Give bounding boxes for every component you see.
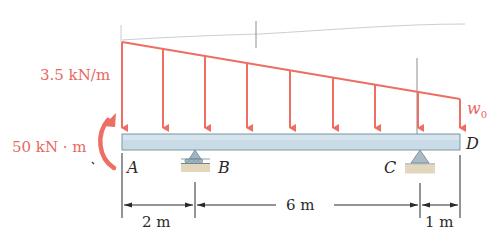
moment-label: 50 kN · m bbox=[12, 140, 87, 155]
diagram-canvas bbox=[0, 0, 503, 245]
dimension-bc-label: 6 m bbox=[286, 198, 315, 213]
w-subscript: 0 bbox=[481, 109, 487, 120]
w-symbol: w bbox=[467, 99, 481, 118]
distributed-load bbox=[122, 42, 460, 128]
faint-construction-lines bbox=[121, 21, 465, 150]
dimension-cd-label: 1 m bbox=[425, 215, 454, 230]
point-d-label: D bbox=[466, 136, 479, 152]
dimension-ab-label: 2 m bbox=[142, 215, 171, 230]
point-a-label: A bbox=[127, 160, 139, 176]
point-b-label: B bbox=[218, 160, 230, 176]
distributed-load-start-label: 3.5 kN/m bbox=[40, 68, 110, 83]
roller-support-b bbox=[181, 150, 210, 172]
point-c-label: C bbox=[384, 160, 396, 176]
distributed-load-end-label: w0 bbox=[467, 101, 487, 120]
pin-support-c bbox=[405, 150, 435, 174]
beam-diagram: 3.5 kN/m w0 50 kN · m A B C D 2 m 6 m 1 … bbox=[0, 0, 503, 245]
beam bbox=[122, 134, 460, 150]
moment-arrow bbox=[92, 113, 116, 168]
